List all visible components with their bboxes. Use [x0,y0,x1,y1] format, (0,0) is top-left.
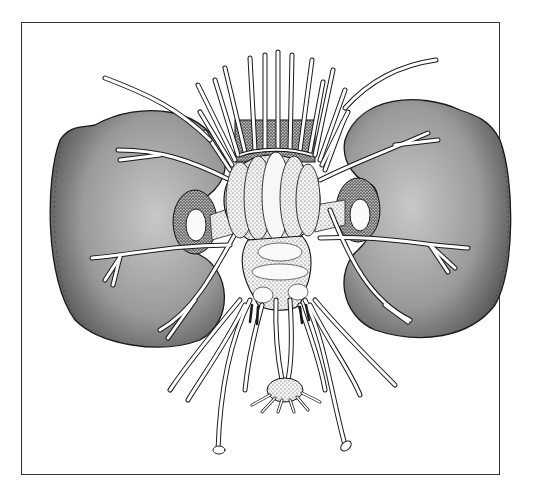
terminal-ganglion [252,378,320,412]
central-ganglion [224,150,320,245]
anatomy-illustration [0,0,557,498]
